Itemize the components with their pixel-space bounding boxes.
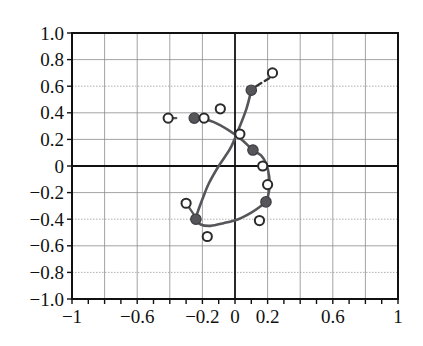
y-tick-label: 0 bbox=[55, 156, 65, 177]
data-point-open bbox=[199, 114, 208, 123]
y-tick-label: 1.0 bbox=[40, 23, 64, 44]
plot-canvas: 1.00.80.60.40.20−0.2−0.4−0.6−0.8−1.0−1−0… bbox=[0, 0, 423, 346]
y-tick-label: 0.2 bbox=[40, 129, 64, 150]
data-point-open bbox=[182, 199, 191, 208]
y-tick-label: −1.0 bbox=[30, 289, 64, 310]
scatter-chart: 1.00.80.60.40.20−0.2−0.4−0.6−0.8−1.0−1−0… bbox=[0, 0, 423, 346]
y-tick-label: −0.2 bbox=[30, 182, 64, 203]
x-tick-label: −0.6 bbox=[120, 306, 154, 327]
data-point-filled bbox=[261, 197, 271, 207]
data-point-filled bbox=[248, 145, 258, 155]
y-tick-label: −0.4 bbox=[30, 209, 65, 230]
data-point-filled bbox=[189, 113, 199, 123]
data-point-open bbox=[235, 129, 244, 138]
x-tick-label: −0.2 bbox=[185, 306, 219, 327]
data-point-open bbox=[216, 104, 225, 113]
data-point-open bbox=[203, 232, 212, 241]
x-tick-label: 0 bbox=[230, 306, 240, 327]
x-tick-label: 1 bbox=[393, 306, 403, 327]
data-point-open bbox=[263, 180, 272, 189]
y-tick-label: 0.8 bbox=[40, 49, 64, 70]
data-point-filled bbox=[246, 85, 256, 95]
x-tick-label: −1 bbox=[62, 306, 82, 327]
data-point-filled bbox=[191, 214, 201, 224]
y-tick-label: 0.6 bbox=[40, 76, 64, 97]
y-tick-label: −0.8 bbox=[30, 262, 64, 283]
data-point-open bbox=[164, 114, 173, 123]
x-tick-label: 0.2 bbox=[256, 306, 280, 327]
y-tick-label: −0.6 bbox=[30, 235, 64, 256]
data-point-open bbox=[268, 68, 277, 77]
y-tick-label: 0.4 bbox=[40, 102, 64, 123]
x-tick-label: 0.6 bbox=[321, 306, 345, 327]
data-point-open bbox=[258, 161, 267, 170]
data-point-open bbox=[255, 216, 264, 225]
